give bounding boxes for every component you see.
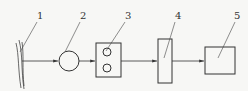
label-2: 2 <box>80 10 86 21</box>
label-1: 1 <box>37 10 43 21</box>
block-diagram: 1 2 3 4 5 <box>0 0 248 91</box>
component-2-circle <box>59 51 79 71</box>
leader-lines <box>20 22 235 58</box>
label-4: 4 <box>175 10 181 21</box>
label-3: 3 <box>125 10 131 21</box>
component-3-box <box>96 43 121 77</box>
label-5: 5 <box>234 10 240 21</box>
component-4-box <box>158 39 172 83</box>
component-5-box <box>205 47 235 74</box>
